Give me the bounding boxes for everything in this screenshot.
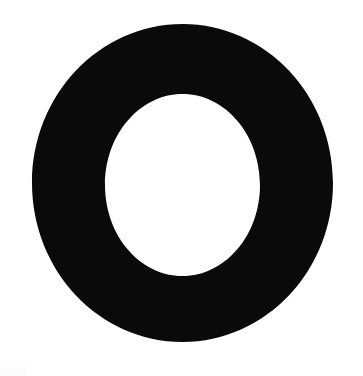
letter-o-ring-icon xyxy=(0,0,363,376)
image-canvas: O xyxy=(0,0,363,376)
